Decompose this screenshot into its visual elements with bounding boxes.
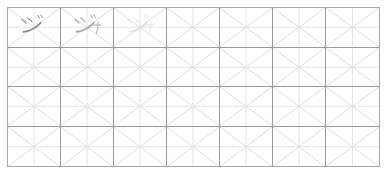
cell-guide-lines	[167, 8, 219, 47]
practice-cell-r1c5[interactable]	[220, 8, 273, 48]
practice-cell-r2c5[interactable]	[220, 48, 273, 88]
cell-guide-lines	[8, 87, 60, 126]
practice-cell-r3c4[interactable]	[167, 87, 220, 127]
practice-cell-r4c3[interactable]	[114, 127, 167, 167]
practice-cell-r2c3[interactable]	[114, 48, 167, 88]
practice-cell-r1c3[interactable]: ジャ	[114, 8, 167, 48]
cell-guide-lines	[220, 87, 272, 126]
cell-guide-lines	[220, 8, 272, 47]
cell-guide-lines	[167, 127, 219, 167]
practice-cell-r4c6[interactable]	[273, 127, 326, 167]
practice-cell-r2c6[interactable]	[273, 48, 326, 88]
cell-guide-lines	[8, 8, 60, 47]
cell-guide-lines	[61, 127, 113, 167]
worksheet-page: ジジャジャ	[0, 0, 388, 174]
practice-cell-r3c7[interactable]	[326, 87, 379, 127]
cell-guide-lines	[114, 87, 166, 126]
cell-guide-lines	[273, 87, 325, 126]
practice-grid: ジジャジャ	[7, 7, 380, 167]
practice-cell-r3c2[interactable]	[61, 87, 114, 127]
kana-glyph-ja: ジャ	[61, 8, 113, 47]
cell-guide-lines	[273, 8, 325, 47]
practice-cell-r1c1[interactable]: ジ	[8, 8, 61, 48]
cell-guide-lines	[114, 48, 166, 87]
cell-guide-lines	[61, 87, 113, 126]
practice-cell-r4c4[interactable]	[167, 127, 220, 167]
practice-cell-r4c2[interactable]	[61, 127, 114, 167]
cell-guide-lines	[114, 127, 166, 167]
practice-cell-r1c4[interactable]	[167, 8, 220, 48]
practice-cell-r3c5[interactable]	[220, 87, 273, 127]
cell-guide-lines	[326, 48, 379, 87]
practice-cell-r3c1[interactable]	[8, 87, 61, 127]
practice-cell-r4c7[interactable]	[326, 127, 379, 167]
cell-guide-lines	[220, 127, 272, 167]
cell-guide-lines	[273, 48, 325, 87]
cell-guide-lines	[61, 8, 113, 47]
kana-glyph-ji: ジ	[8, 8, 60, 47]
cell-guide-lines	[326, 127, 379, 167]
practice-cell-r2c1[interactable]	[8, 48, 61, 88]
cell-guide-lines	[220, 48, 272, 87]
practice-cell-r2c2[interactable]	[61, 48, 114, 88]
cell-guide-lines	[61, 48, 113, 87]
practice-cell-r2c4[interactable]	[167, 48, 220, 88]
practice-cell-r4c5[interactable]	[220, 127, 273, 167]
practice-cell-r2c7[interactable]	[326, 48, 379, 88]
kana-glyph-ja: ジャ	[114, 8, 166, 47]
cell-guide-lines	[8, 48, 60, 87]
cell-guide-lines	[167, 87, 219, 126]
cell-guide-lines	[167, 48, 219, 87]
practice-cell-r1c7[interactable]	[326, 8, 379, 48]
practice-cell-r1c6[interactable]	[273, 8, 326, 48]
practice-cell-r1c2[interactable]: ジャ	[61, 8, 114, 48]
practice-cell-r3c6[interactable]	[273, 87, 326, 127]
cell-guide-lines	[326, 87, 379, 126]
practice-cell-r3c3[interactable]	[114, 87, 167, 127]
cell-guide-lines	[326, 8, 379, 47]
cell-guide-lines	[8, 127, 60, 167]
practice-cell-r4c1[interactable]	[8, 127, 61, 167]
cell-guide-lines	[114, 8, 166, 47]
cell-guide-lines	[273, 127, 325, 167]
